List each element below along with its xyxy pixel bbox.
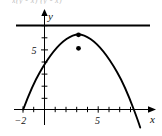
vertex-point (76, 32, 81, 37)
interior-point (76, 46, 81, 51)
y-axis-arrow-icon (41, 9, 47, 16)
x-axis-arrow-icon (148, 106, 156, 112)
y-tick-label-5: 5 (32, 45, 37, 56)
parabola-curve (23, 35, 140, 128)
parabola-plot: −2 5 5 y x (0, 0, 162, 136)
x-tick-label-minus-2: −2 (15, 115, 27, 126)
figure-container: x(y - x) (y - x) (0, 0, 162, 136)
x-tick-label-5: 5 (95, 115, 100, 126)
y-axis-label: y (47, 10, 53, 22)
x-axis-label: x (149, 113, 155, 125)
